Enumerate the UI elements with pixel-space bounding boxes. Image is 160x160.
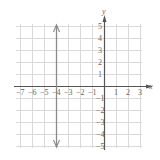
y-tick-label: −5 [96, 142, 105, 151]
x-tick-label: −6 [28, 88, 37, 97]
x-tick-label: 1 [114, 88, 118, 97]
axes [14, 15, 153, 150]
y-tick-label: 1 [98, 70, 102, 79]
y-tick-label: 3 [98, 46, 102, 55]
x-axis-label: x [148, 82, 153, 91]
y-tick-label: −1 [96, 94, 105, 103]
x-tick-label: −2 [76, 88, 85, 97]
y-tick-label: 4 [98, 34, 102, 43]
y-axis-arrow-icon [103, 15, 107, 22]
y-axis-label: y [101, 7, 106, 16]
coordinate-plot: −7−6−5−4−3−2−112354321−1−2−3−4−5 x y [0, 0, 160, 160]
y-tick-label: 5 [98, 22, 102, 31]
x-tick-label: 3 [138, 88, 142, 97]
y-tick-label: −2 [96, 106, 105, 115]
x-tick-label: 2 [126, 88, 130, 97]
x-tick-label: −5 [40, 88, 49, 97]
x-tick-label: −7 [16, 88, 25, 97]
y-tick-label: −4 [96, 130, 105, 139]
x-tick-label: −3 [64, 88, 73, 97]
y-tick-label: −3 [96, 118, 105, 127]
y-tick-label: 2 [98, 58, 102, 67]
